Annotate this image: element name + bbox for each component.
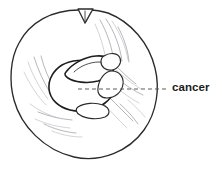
tissue-texture-lower-right [104,98,145,128]
nipple-notch-icon [78,9,93,23]
tumor-nodule [101,54,121,71]
figure-container: cancer [0,0,222,173]
lower-lobule [76,103,109,118]
callout-label-cancer: cancer [172,81,210,94]
